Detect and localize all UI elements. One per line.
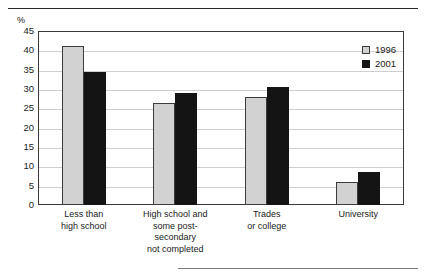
x-axis-label-3: University	[313, 209, 405, 221]
gridline	[39, 167, 403, 168]
y-axis-tick-15: 15	[14, 142, 34, 152]
legend-swatch-icon-2001	[362, 60, 370, 68]
y-axis-tick-10: 10	[14, 161, 34, 171]
chart-figure: % 454035302520151050 Less than high scho…	[0, 0, 426, 276]
y-axis-tick-0: 0	[14, 200, 34, 210]
legend-item-1996: 1996	[362, 43, 414, 57]
legend-label-2001: 2001	[375, 59, 396, 69]
gridline	[39, 71, 403, 72]
x-axis-category-labels: Less than high schoolHigh school and som…	[38, 209, 404, 271]
y-axis-tick-labels: 454035302520151050	[10, 31, 34, 205]
x-axis-label-0: Less than high school	[38, 209, 130, 232]
y-axis-tick-30: 30	[14, 84, 34, 94]
y-axis-tick-45: 45	[14, 26, 34, 36]
gridline	[39, 148, 403, 149]
chart-legend: 19962001	[362, 43, 414, 71]
x-axis-label-2: Trades or college	[221, 209, 313, 232]
y-axis-tick-40: 40	[14, 45, 34, 55]
gridline	[39, 187, 403, 188]
gridline	[39, 129, 403, 130]
gridline	[39, 109, 403, 110]
y-axis-tick-35: 35	[14, 65, 34, 75]
gridline	[39, 51, 403, 52]
y-axis-tick-25: 25	[14, 103, 34, 113]
y-axis-unit-label: %	[17, 15, 25, 25]
x-axis-label-1: High school and some post- secondary not…	[130, 209, 222, 255]
legend-item-2001: 2001	[362, 57, 414, 71]
plot-area	[38, 31, 404, 205]
legend-swatch-icon-1996	[362, 46, 370, 54]
y-axis-tick-20: 20	[14, 123, 34, 133]
gridline	[39, 90, 403, 91]
bottom-divider-rule	[178, 268, 418, 269]
top-divider-rule	[8, 8, 418, 9]
legend-label-1996: 1996	[375, 45, 396, 55]
y-axis-tick-5: 5	[14, 181, 34, 191]
